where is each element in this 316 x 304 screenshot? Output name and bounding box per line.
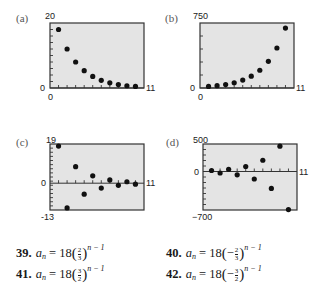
fraction: 32 — [78, 268, 82, 283]
exercise-number: 40. — [166, 246, 182, 260]
exercise-number: 41. — [16, 267, 32, 281]
exercise-number: 42. — [166, 267, 182, 281]
eq-rhs: = 18 — [196, 267, 222, 281]
exercise-39: 39.an = 18(23)n − 1 — [16, 243, 105, 262]
fraction: 32 — [235, 268, 239, 283]
eq-sign: − — [227, 246, 234, 260]
eq-rhs: = 18 — [196, 246, 222, 260]
eq-sign: − — [227, 267, 234, 281]
fraction: 23 — [78, 247, 82, 262]
eq-exponent: n − 1 — [87, 243, 104, 252]
exercise-number: 39. — [16, 246, 32, 260]
eq-rhs: = 18 — [46, 267, 72, 281]
exercise-41: 41.an = 18(32)n − 1 — [16, 264, 105, 283]
exercise-40: 40.an = 18(−23)n − 1 — [166, 243, 262, 262]
exercise-42: 42.an = 18(−32)n − 1 — [166, 264, 262, 283]
fraction: 23 — [235, 247, 239, 262]
eq-exponent: n − 1 — [244, 243, 261, 252]
eq-exponent: n − 1 — [87, 264, 104, 273]
eq-rhs: = 18 — [46, 246, 72, 260]
eq-exponent: n − 1 — [244, 264, 261, 273]
